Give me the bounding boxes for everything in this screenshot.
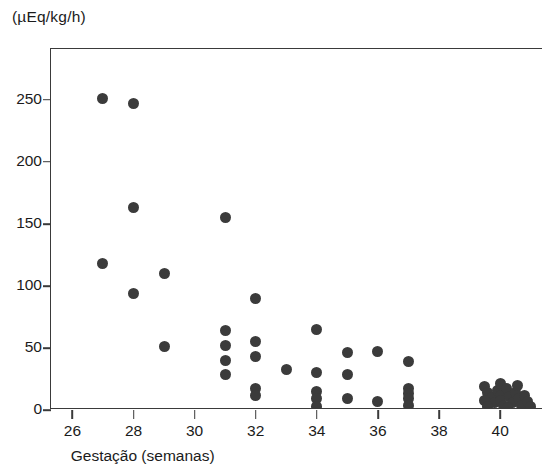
data-point: [372, 396, 383, 407]
data-point: [220, 212, 231, 223]
data-point: [281, 364, 292, 375]
data-point: [250, 351, 261, 362]
data-point: [512, 380, 523, 391]
data-point: [128, 288, 139, 299]
data-point: [97, 258, 108, 269]
x-tick-mark: [194, 410, 196, 419]
y-axis-tick-labels: 050100150200250: [0, 48, 42, 409]
y-tick-label: 250: [16, 90, 42, 108]
data-point: [128, 98, 139, 109]
data-point: [403, 356, 414, 367]
x-tick-label: 30: [186, 422, 203, 440]
x-tick-mark: [499, 410, 501, 419]
data-point: [372, 346, 383, 357]
x-axis-tick-marks: 2628303234363840: [51, 410, 542, 450]
y-tick-mark: [43, 223, 51, 225]
x-tick-label: 34: [308, 422, 325, 440]
data-point: [342, 369, 353, 380]
x-tick-mark: [255, 410, 257, 419]
data-point: [250, 293, 261, 304]
data-point: [220, 369, 231, 380]
y-tick-label: 200: [16, 152, 42, 170]
data-point: [525, 401, 536, 408]
x-tick-mark: [316, 410, 318, 419]
data-point: [342, 347, 353, 358]
data-point: [403, 400, 414, 408]
plot-frame: 2628303234363840: [50, 48, 542, 409]
x-tick-label: 40: [492, 422, 509, 440]
x-tick-label: 26: [64, 422, 81, 440]
x-tick-label: 38: [430, 422, 447, 440]
y-tick-label: 50: [25, 338, 42, 356]
y-tick-mark: [43, 99, 51, 101]
data-point: [220, 355, 231, 366]
y-tick-label: 150: [16, 214, 42, 232]
y-tick-label: 0: [33, 400, 42, 418]
y-axis-label: (µEq/kg/h): [12, 8, 86, 26]
data-point: [128, 202, 139, 213]
y-tick-mark: [43, 347, 51, 349]
data-point: [311, 324, 322, 335]
y-tick-mark: [43, 409, 51, 411]
data-point: [250, 336, 261, 347]
data-point: [250, 390, 261, 401]
data-point: [159, 268, 170, 279]
y-tick-label: 100: [16, 276, 42, 294]
x-tick-label: 32: [247, 422, 264, 440]
data-point: [97, 93, 108, 104]
x-tick-label: 28: [125, 422, 142, 440]
data-point: [220, 340, 231, 351]
x-tick-mark: [72, 410, 74, 419]
data-point: [311, 367, 322, 378]
x-tick-mark: [133, 410, 135, 419]
x-axis-label: Gestação (semanas): [0, 447, 285, 465]
x-tick-mark: [377, 410, 379, 419]
y-tick-mark: [43, 161, 51, 163]
data-point: [159, 341, 170, 352]
data-point: [342, 393, 353, 404]
data-points-layer: [51, 49, 542, 408]
y-tick-mark: [43, 285, 51, 287]
x-tick-label: 36: [369, 422, 386, 440]
x-tick-mark: [438, 410, 440, 419]
data-point: [220, 325, 231, 336]
